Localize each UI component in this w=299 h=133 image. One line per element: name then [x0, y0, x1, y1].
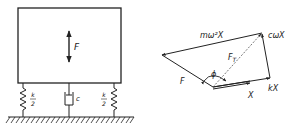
transmitted-force-label: FT [228, 53, 238, 63]
damping-force-label: cωX [268, 31, 285, 40]
mass-spring-damper-system: F k 2 c k 2 [6, 8, 134, 123]
displacement-label: X [247, 91, 254, 100]
spring-force-label: kX [268, 84, 279, 93]
spring-force-vector [213, 78, 270, 87]
right-spring-label: k 2 [101, 91, 107, 107]
left-spring-label: k 2 [30, 91, 36, 107]
damper-icon [65, 83, 73, 117]
applied-force-vector [162, 55, 213, 87]
ground [6, 117, 134, 123]
right-spring-icon [111, 83, 117, 117]
left-spring-icon [20, 83, 26, 117]
phase-angle-label: ϕ [211, 70, 217, 79]
svg-text:2: 2 [102, 100, 106, 107]
inertia-force-label: mω²X [200, 31, 224, 40]
svg-text:k: k [102, 91, 106, 98]
vibration-isolation-diagram: F k 2 c k 2 [0, 0, 299, 133]
force-vector-diagram: X kX cωX mω²X F FT ϕ [162, 31, 285, 100]
svg-text:2: 2 [31, 100, 35, 107]
svg-text:k: k [31, 91, 35, 98]
damping-force-vector [262, 34, 270, 78]
damper-label: c [76, 95, 80, 103]
applied-force-label: F [180, 77, 185, 86]
force-label: F [74, 42, 80, 52]
